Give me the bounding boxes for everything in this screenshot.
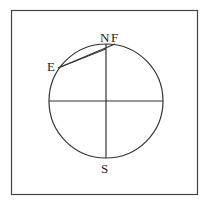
label-e: E — [47, 59, 55, 74]
label-n: N — [100, 30, 110, 45]
label-f: F — [111, 30, 118, 45]
chord-e-n-line — [58, 49, 106, 68]
diagram-canvas: N F E S — [0, 0, 209, 207]
label-s: S — [101, 161, 108, 176]
